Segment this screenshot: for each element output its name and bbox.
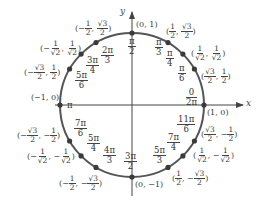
x-axis-label: x — [246, 98, 251, 108]
angle-label-7pi4: 7π4 — [167, 133, 180, 152]
angle-label-0: 0 2π — [186, 88, 197, 107]
coord-label-0-1: (0, 1) — [136, 20, 158, 29]
coord-label-pi3: (12, √32) — [166, 23, 196, 39]
angle-label-pi6: π6 — [178, 64, 186, 83]
coord-label-5pi3: (12, −√32) — [172, 170, 208, 186]
coord-label-4pi3: (−12, −√32) — [59, 175, 102, 191]
angle-2pi: 2π — [186, 97, 197, 107]
angle-label-5pi3: 5π3 — [153, 146, 166, 165]
y-axis-label: y — [120, 6, 125, 16]
angle-label-11pi6: 11π6 — [177, 115, 195, 134]
coord-label-neg1-0: (−1, 0) — [31, 93, 59, 102]
angle-label-3pi2: 3π2 — [124, 152, 137, 171]
coord-label-3pi4: (−1√2, 1√2) — [40, 40, 81, 56]
angle-label-2pi3: 2π3 — [101, 46, 114, 65]
angle-label-pi3: π3 — [155, 38, 163, 57]
angle-label-pi: π — [67, 100, 73, 110]
coord-label-0-neg1: (0, −1) — [135, 180, 163, 189]
coord-label-pi6: (√32, 12) — [201, 68, 231, 84]
angle-label-5pi6: 5π6 — [75, 71, 88, 90]
angle-label-pi2: π2 — [128, 37, 136, 56]
coord-label-11pi6: (√32, −12) — [201, 126, 237, 142]
angle-label-pi4: π4 — [166, 49, 174, 68]
angle-label-5pi4: 5π4 — [87, 134, 100, 153]
coord-label-2pi3: (−12, √32) — [75, 20, 111, 36]
coord-label-1-0: (1, 0) — [207, 108, 229, 117]
coord-label-pi4: (1√2, 1√2) — [191, 45, 225, 61]
angle-label-4pi3: 4π3 — [103, 146, 116, 165]
unit-circle-graphic — [0, 0, 261, 205]
angle-0: 0 — [186, 88, 197, 97]
coord-label-7pi6: (−√32, −12) — [17, 127, 60, 143]
coord-label-5pi4: (−1√2, −1√2) — [27, 148, 75, 164]
coord-label-5pi6: (−√32, 12) — [24, 64, 60, 80]
angle-label-7pi6: 7π6 — [74, 119, 87, 138]
coord-label-7pi4: (1√2, −1√2) — [193, 147, 234, 163]
